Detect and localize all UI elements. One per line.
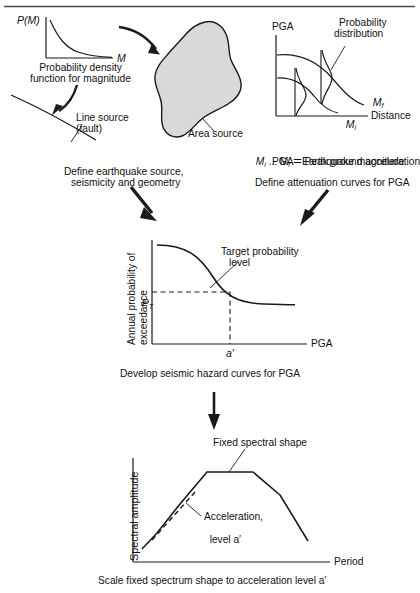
probability-distribution-label-line2: distribution [334, 28, 383, 40]
step3-caption: Develop seismic hazard curves for PGA [120, 368, 300, 380]
attenuation-curve-mi [277, 78, 338, 113]
spectrum-chart-axes [133, 458, 330, 562]
attenuation-x-axis-label: Distance [371, 110, 411, 122]
attenuation-y-axis-label: PGA [272, 21, 294, 33]
area-source-label: Area source [188, 128, 243, 140]
pdf-curve [50, 20, 112, 57]
accel-leader [186, 503, 201, 516]
fixed-spectral-shape-label: Fixed spectral shape [213, 437, 307, 449]
curve-label-mi: Mi [340, 106, 356, 132]
pdf-chart-axes [46, 17, 113, 58]
step4-caption: Scale fixed spectrum shape to accelerati… [98, 575, 326, 587]
spectrum-x-axis-label: Period [334, 556, 363, 568]
target-probability-label-line2: level [229, 257, 250, 269]
pdist-leader [331, 46, 345, 70]
pdist-bell-2 [296, 68, 306, 116]
fixed-spectral-shape-leader [229, 449, 245, 472]
arrow-hazard-to-spectrum [208, 392, 220, 430]
arrow-pdf-to-area [119, 27, 156, 49]
hazard-x-axis-label: PGA [311, 338, 333, 350]
spectrum-dashed-segment [152, 491, 196, 540]
acceleration-label-line2: level a′ [204, 522, 241, 546]
line-source-label-line2: (fault) [76, 123, 102, 135]
curve-label-mf: Mf [367, 84, 384, 110]
hazard-pt-label: PT [136, 285, 153, 311]
pdf-y-axis-label: P(M) [17, 14, 40, 26]
spectrum-y-axis-label: Spectral amplitude [128, 472, 141, 561]
pdf-caption-line2: function for magnitude [8, 73, 153, 85]
area-source-polygon [155, 22, 241, 137]
arrow-attenuation-to-hazard [300, 190, 328, 226]
arrow-sources-to-hazard [131, 187, 157, 221]
legend-pga: PGA = Peak ground acceleration [272, 156, 420, 168]
hazard-a-prime-label: a′ [226, 347, 234, 359]
step1-caption-line2: seismicity and geometry [71, 177, 180, 189]
step2-caption: Define attenuation curves for PGA [255, 177, 410, 189]
